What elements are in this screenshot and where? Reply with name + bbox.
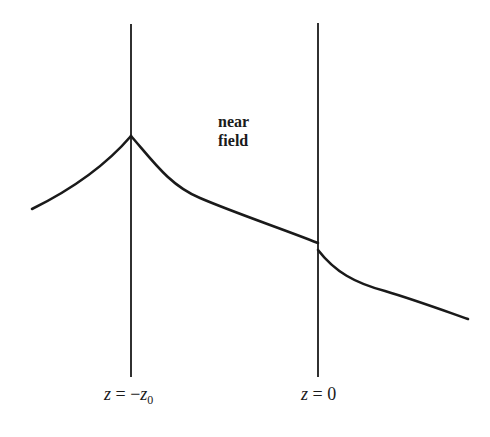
label-var: z: [301, 384, 308, 404]
curve-segment-right: [318, 250, 468, 319]
label-rhs-value: 0: [327, 384, 336, 404]
curve-segment-left: [32, 136, 131, 209]
boundary-label-z-minus-z0: z = −z0: [104, 384, 153, 408]
near-field-label-line2: field: [218, 131, 249, 150]
curve-segment-near-field: [131, 136, 318, 243]
diagram-plot: [0, 0, 490, 437]
diagram-canvas: near field z = −z0 z = 0: [0, 0, 490, 437]
label-rhs-subscript: 0: [147, 393, 153, 407]
near-field-label-line1: near: [218, 112, 249, 131]
label-equals: =: [308, 384, 327, 404]
label-equals: = −: [111, 384, 140, 404]
near-field-label: near field: [218, 112, 249, 150]
boundary-label-z-zero: z = 0: [301, 384, 336, 405]
label-var: z: [104, 384, 111, 404]
